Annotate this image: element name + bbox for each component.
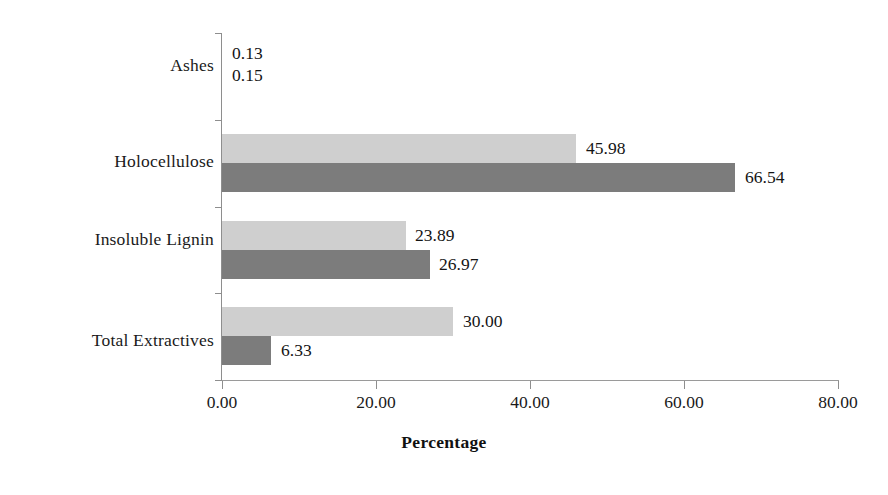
category-label-insoluble-lignin: Insoluble Lignin [95, 229, 214, 250]
x-axis-tick [684, 381, 685, 389]
category-row-total-extractives: Total Extractives 30.00 6.33 [222, 293, 838, 380]
y-axis-tick [215, 380, 222, 381]
x-axis-tick-label: 60.00 [664, 392, 703, 413]
x-axis-tick-label: 40.00 [510, 392, 549, 413]
category-row-ashes: Ashes 0.13 0.15 [222, 33, 838, 120]
x-axis-tick [222, 381, 223, 389]
bar-value-light-ashes: 0.13 [232, 45, 263, 63]
category-label-ashes: Ashes [170, 55, 214, 76]
bar-value-light-total-extractives: 30.00 [463, 313, 502, 331]
bar-value-dark-holocellulose: 66.54 [745, 169, 784, 187]
category-row-insoluble-lignin: Insoluble Lignin 23.89 26.97 [222, 207, 838, 294]
bar-value-light-insoluble-lignin: 23.89 [415, 227, 454, 245]
bar-light-insoluble-lignin [222, 221, 406, 250]
bar-dark-holocellulose [222, 163, 735, 192]
x-axis-tick-label: 80.00 [818, 392, 857, 413]
x-axis-tick-label: 20.00 [356, 392, 395, 413]
y-axis-tick [215, 207, 222, 208]
y-axis-tick [215, 293, 222, 294]
bar-chart: Ashes 0.13 0.15 Holocellulose 45.98 66.5… [0, 0, 888, 495]
x-axis-tick [838, 381, 839, 389]
y-axis-tick [215, 120, 222, 121]
x-axis-tick [376, 381, 377, 389]
bar-dark-total-extractives [222, 336, 271, 365]
category-label-holocellulose: Holocellulose [114, 151, 214, 172]
bar-light-holocellulose [222, 134, 576, 163]
bar-value-dark-insoluble-lignin: 26.97 [439, 256, 478, 274]
x-axis-tick-label: 0.00 [207, 392, 238, 413]
bar-dark-insoluble-lignin [222, 250, 430, 279]
x-axis-tick [530, 381, 531, 389]
bar-value-light-holocellulose: 45.98 [586, 140, 625, 158]
y-axis-tick [215, 33, 222, 34]
plot-area: Ashes 0.13 0.15 Holocellulose 45.98 66.5… [222, 33, 838, 380]
category-label-total-extractives: Total Extractives [92, 330, 214, 351]
bar-value-dark-ashes: 0.15 [232, 67, 263, 85]
bar-value-dark-total-extractives: 6.33 [281, 342, 312, 360]
x-axis-title: Percentage [0, 432, 888, 453]
bar-light-total-extractives [222, 307, 453, 336]
category-row-holocellulose: Holocellulose 45.98 66.54 [222, 120, 838, 207]
